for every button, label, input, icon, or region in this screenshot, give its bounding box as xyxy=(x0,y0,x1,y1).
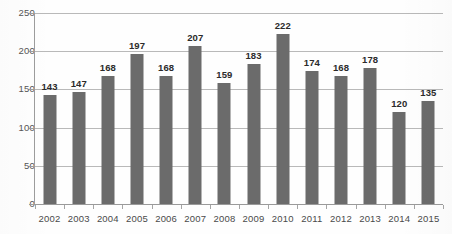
bar-value-label: 178 xyxy=(362,54,378,65)
bar-chart: 050100150200250 143147168197168207159183… xyxy=(0,0,452,234)
x-tick-label: 2008 xyxy=(210,213,239,224)
bar-group: 147 xyxy=(64,13,93,204)
bars-layer: 1431471681971682071591832221741681781201… xyxy=(35,13,443,204)
bar-group: 143 xyxy=(35,13,64,204)
bar xyxy=(305,71,318,204)
x-tick-label: 2002 xyxy=(35,213,64,224)
bar xyxy=(160,76,173,204)
x-axis: 2002200320042005200620072008200920102011… xyxy=(35,204,443,234)
bar-value-label: 135 xyxy=(420,87,436,98)
bar-group: 174 xyxy=(297,13,326,204)
bar-value-label: 159 xyxy=(216,69,232,80)
bar-group: 183 xyxy=(239,13,268,204)
bar-group: 178 xyxy=(356,13,385,204)
x-tick-label: 2006 xyxy=(152,213,181,224)
x-tick-label: 2010 xyxy=(268,213,297,224)
x-tick-mark xyxy=(181,205,182,209)
bar-value-label: 183 xyxy=(245,50,261,61)
x-tick-mark xyxy=(414,205,415,209)
x-tick-label: 2011 xyxy=(297,213,326,224)
bar-group: 135 xyxy=(414,13,443,204)
bar xyxy=(393,112,406,204)
x-tick-mark xyxy=(64,205,65,209)
x-tick-label: 2009 xyxy=(239,213,268,224)
x-tick-mark xyxy=(122,205,123,209)
bar-value-label: 222 xyxy=(275,20,291,31)
x-tick-mark xyxy=(210,205,211,209)
bar xyxy=(247,64,260,204)
x-tick-mark xyxy=(356,205,357,209)
bar-group: 197 xyxy=(122,13,151,204)
x-tick-label: 2003 xyxy=(64,213,93,224)
bar-group: 222 xyxy=(268,13,297,204)
bar xyxy=(218,83,231,204)
bar-value-label: 168 xyxy=(158,62,174,73)
bar-value-label: 147 xyxy=(71,78,87,89)
bar xyxy=(130,54,143,205)
y-axis: 050100150200250 xyxy=(0,0,35,234)
x-tick-label: 2013 xyxy=(356,213,385,224)
bar xyxy=(364,68,377,204)
x-tick-mark xyxy=(385,205,386,209)
bar-value-label: 197 xyxy=(129,40,145,51)
x-tick-label: 2012 xyxy=(326,213,355,224)
x-tick-label: 2015 xyxy=(414,213,443,224)
bar-group: 168 xyxy=(326,13,355,204)
x-tick-mark xyxy=(93,205,94,209)
x-tick-label: 2014 xyxy=(385,213,414,224)
bar-group: 159 xyxy=(210,13,239,204)
bar xyxy=(72,92,85,204)
bar-group: 168 xyxy=(93,13,122,204)
x-tick-label: 2005 xyxy=(122,213,151,224)
x-tick-mark xyxy=(443,205,444,209)
bar-value-label: 143 xyxy=(41,81,57,92)
bar-group: 168 xyxy=(152,13,181,204)
bar xyxy=(334,76,347,204)
bar-value-label: 168 xyxy=(333,62,349,73)
x-tick-label: 2007 xyxy=(181,213,210,224)
bar xyxy=(422,101,435,204)
x-tick-mark xyxy=(326,205,327,209)
bar xyxy=(43,95,56,204)
bar-value-label: 168 xyxy=(100,62,116,73)
bar xyxy=(276,34,289,204)
bar xyxy=(101,76,114,204)
bar-value-label: 174 xyxy=(304,57,320,68)
bar-value-label: 120 xyxy=(391,98,407,109)
bar-value-label: 207 xyxy=(187,32,203,43)
x-tick-mark xyxy=(297,205,298,209)
x-tick-label: 2004 xyxy=(93,213,122,224)
x-tick-mark xyxy=(152,205,153,209)
bar-group: 120 xyxy=(385,13,414,204)
x-tick-mark xyxy=(268,205,269,209)
bar-group: 207 xyxy=(181,13,210,204)
bar xyxy=(189,46,202,204)
x-tick-mark xyxy=(35,205,36,209)
x-tick-mark xyxy=(239,205,240,209)
